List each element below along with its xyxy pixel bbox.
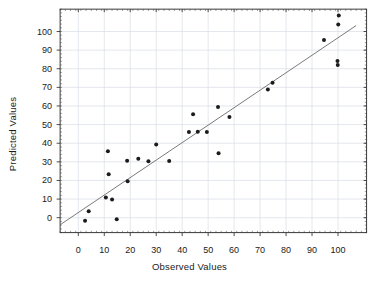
x-tick-label: 0 (76, 245, 81, 255)
y-tick-label: 30 (28, 157, 52, 167)
x-tick-label: 50 (203, 245, 213, 255)
x-tick-label: 100 (330, 245, 345, 255)
x-tick-label: 70 (255, 245, 265, 255)
x-tick-label: 80 (281, 245, 291, 255)
y-tick-label: 80 (28, 64, 52, 74)
y-tick-label: 40 (28, 138, 52, 148)
y-tick-label: 70 (28, 82, 52, 92)
x-tick-label: 20 (125, 245, 135, 255)
x-tick-label: 40 (177, 245, 187, 255)
x-tick-label: 60 (229, 245, 239, 255)
y-tick-label: 100 (28, 27, 52, 37)
y-tick-label: 20 (28, 175, 52, 185)
y-tick-labels: 0102030405060708090100 (26, 0, 52, 286)
x-tick-label: 10 (99, 245, 109, 255)
y-tick-label: 10 (28, 194, 52, 204)
x-tick-label: 30 (151, 245, 161, 255)
y-tick-label: 0 (28, 213, 52, 223)
x-tick-label: 90 (307, 245, 317, 255)
y-tick-label: 50 (28, 120, 52, 130)
x-axis-title: Observed Values (0, 261, 379, 272)
data-points (83, 13, 341, 222)
y-axis-title: Predicted Values (7, 79, 18, 189)
y-tick-label: 90 (28, 45, 52, 55)
scatter-plot-figure: 0102030405060708090100 01020304050607080… (0, 0, 379, 286)
plot-canvas (0, 0, 379, 286)
y-tick-label: 60 (28, 101, 52, 111)
